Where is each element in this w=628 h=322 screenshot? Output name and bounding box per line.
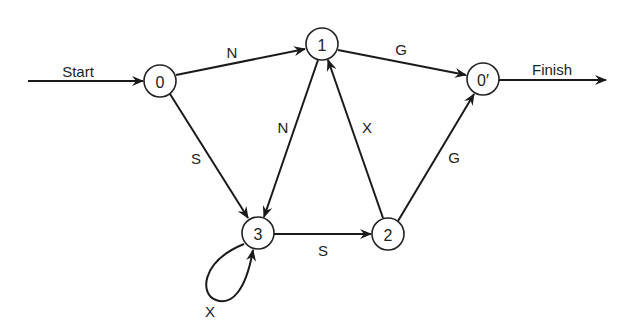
node-2: 2 [372, 218, 404, 250]
finish-label: Finish [532, 61, 572, 78]
edge-label-3-2: S [318, 242, 328, 259]
edge-label-3-3: X [205, 303, 215, 320]
edge-label-0-3: S [191, 150, 201, 167]
state-diagram: Start N S N G X S X G Finish 0 [0, 0, 628, 322]
svg-text:0: 0 [156, 74, 165, 91]
edge-0-to-1 [176, 49, 305, 75]
edge-label-2-1: X [362, 119, 372, 136]
node-3: 3 [242, 217, 274, 249]
svg-text:2: 2 [384, 227, 393, 244]
svg-text:3: 3 [254, 226, 263, 243]
edge-1-to-3 [264, 60, 318, 217]
svg-text:1: 1 [318, 37, 327, 54]
start-label: Start [62, 63, 95, 80]
node-1: 1 [306, 28, 338, 60]
edge-label-0-1: N [227, 44, 238, 61]
edge-label-1-3: N [278, 119, 289, 136]
edge-2-to-0prime [398, 94, 474, 221]
edge-2-to-1 [328, 60, 383, 218]
node-0: 0 [144, 65, 176, 97]
edge-3-self-loop [206, 244, 253, 301]
edge-label-2-0prime: G [448, 149, 460, 166]
node-0-prime: 0′ [467, 63, 499, 95]
svg-text:0′: 0′ [477, 72, 489, 89]
edge-0-to-3 [170, 94, 248, 218]
edge-label-1-0prime: G [395, 41, 407, 58]
